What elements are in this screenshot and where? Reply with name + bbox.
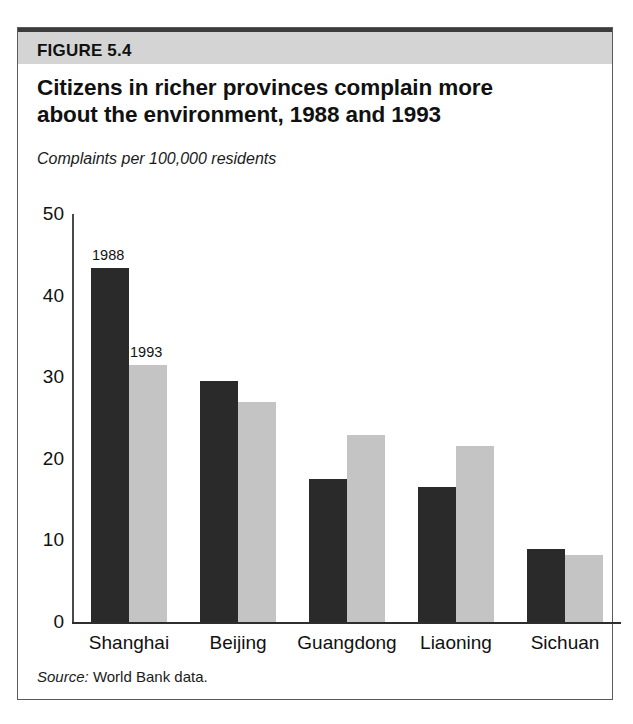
y-axis-tick-label: 40: [24, 285, 64, 307]
y-axis-tick-label: 30: [24, 366, 64, 388]
bar-liaoning-1993: [456, 446, 494, 622]
figure-source: Source: World Bank data.: [37, 668, 208, 685]
y-axis-line: [72, 214, 74, 622]
series-label-1993: 1993: [130, 344, 162, 360]
chart-plot-area: 0102030405019881993ShanghaiBeijingGuangd…: [18, 28, 612, 699]
y-axis-tick-label: 0: [24, 611, 64, 633]
bar-guangdong-1993: [347, 435, 385, 622]
bar-sichuan-1993: [565, 555, 603, 622]
y-axis-tick-label: 50: [24, 203, 64, 225]
y-axis-tick-label: 10: [24, 529, 64, 551]
x-axis-category-label: Liaoning: [420, 632, 492, 654]
figure-container: FIGURE 5.4 Citizens in richer provinces …: [17, 27, 613, 700]
bar-shanghai-1988: [91, 268, 129, 622]
series-label-1988: 1988: [92, 247, 124, 263]
bar-beijing-1988: [200, 381, 238, 622]
bar-sichuan-1988: [527, 549, 565, 622]
x-axis-category-label: Beijing: [209, 632, 266, 654]
x-axis-line: [72, 622, 621, 624]
x-axis-category-label: Sichuan: [531, 632, 600, 654]
x-axis-category-label: Shanghai: [89, 632, 169, 654]
bar-liaoning-1988: [418, 487, 456, 622]
y-axis-tick-label: 20: [24, 448, 64, 470]
source-text-label: World Bank data.: [93, 668, 208, 685]
bar-shanghai-1993: [129, 365, 167, 622]
bar-beijing-1993: [238, 402, 276, 622]
bar-guangdong-1988: [309, 479, 347, 622]
x-axis-category-label: Guangdong: [297, 632, 396, 654]
source-prefix-label: Source:: [37, 668, 89, 685]
